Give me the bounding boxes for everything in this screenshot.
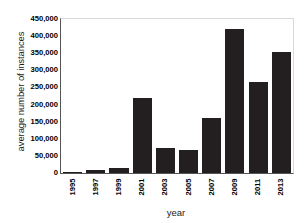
y-axis-tick-label: 250,000 — [16, 82, 58, 91]
x-axis-tick-label: 2003 — [160, 179, 169, 196]
x-tick-slot: 2007 — [200, 174, 222, 204]
x-axis-tick-label: 2001 — [137, 179, 146, 196]
x-tick-slot: 2001 — [130, 174, 152, 204]
x-axis-tick-labels: 1995199719992001200320052007200920112013 — [60, 174, 292, 204]
x-tick-slot: 2005 — [176, 174, 198, 204]
bar-column — [247, 19, 269, 173]
x-axis-tick-label: 2011 — [253, 179, 262, 195]
x-tick-slot: 2009 — [223, 174, 245, 204]
bar — [202, 118, 221, 173]
x-axis-tick-label: 1997 — [90, 179, 99, 196]
bar-column — [154, 19, 176, 173]
plot-area — [60, 18, 294, 174]
bar — [133, 98, 152, 173]
bar-column — [224, 19, 246, 173]
y-axis-tick-label: 0 — [16, 168, 58, 177]
x-axis-title: year — [60, 207, 292, 218]
bar-column — [177, 19, 199, 173]
x-tick-slot: 2003 — [153, 174, 175, 204]
bar-chart-figure: average number of instances 050,000100,0… — [0, 0, 304, 223]
bar — [225, 29, 244, 173]
y-axis-tick-label: 50,000 — [16, 150, 58, 159]
x-tick-slot: 1999 — [107, 174, 129, 204]
x-axis-tick-label: 1995 — [67, 179, 76, 196]
x-tick-slot: 1997 — [84, 174, 106, 204]
y-axis-tick-label: 200,000 — [16, 99, 58, 108]
bar-column — [61, 19, 83, 173]
bar — [86, 170, 105, 173]
bar — [179, 150, 198, 173]
bar-column — [131, 19, 153, 173]
y-axis-tick-label: 400,000 — [16, 31, 58, 40]
y-axis-tick-label: 450,000 — [16, 14, 58, 23]
x-axis-tick-label: 2005 — [183, 179, 192, 196]
bar — [109, 168, 128, 173]
x-tick-slot: 1995 — [60, 174, 82, 204]
bar — [249, 82, 268, 173]
bar — [63, 172, 82, 173]
bar-column — [201, 19, 223, 173]
x-tick-slot: 2011 — [246, 174, 268, 204]
bar — [272, 52, 291, 173]
x-axis-tick-label: 2009 — [229, 179, 238, 196]
x-axis-tick-label: 1999 — [113, 179, 122, 196]
y-axis-tick-label: 100,000 — [16, 133, 58, 142]
x-tick-slot: 2013 — [269, 174, 291, 204]
x-axis-tick-label: 2007 — [206, 179, 215, 196]
y-axis-tick-label: 300,000 — [16, 65, 58, 74]
y-axis-tick-label: 150,000 — [16, 116, 58, 125]
x-axis-tick-label: 2013 — [276, 179, 285, 196]
y-axis-tick-labels: 050,000100,000150,000200,000250,000300,0… — [16, 12, 58, 178]
bar-column — [270, 19, 292, 173]
bar-column — [85, 19, 107, 173]
bar-column — [108, 19, 130, 173]
y-axis-tick-label: 350,000 — [16, 48, 58, 57]
bar-series — [61, 19, 293, 173]
bar — [156, 148, 175, 173]
